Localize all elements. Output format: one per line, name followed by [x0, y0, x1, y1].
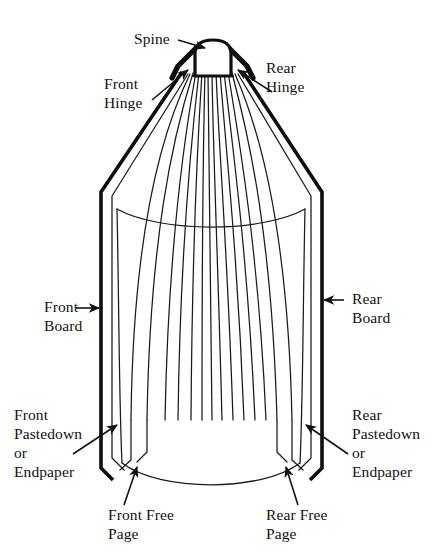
label-rear-hinge-line-1: Rear — [266, 59, 296, 76]
label-rear-pastedown: Rear Pastedown or Endpaper — [352, 406, 420, 480]
front-free-page-leader — [124, 467, 137, 505]
label-front-hinge-line-1: Front — [104, 75, 139, 92]
label-spine: Spine — [134, 30, 170, 47]
label-rear-pastedown-line-2: Pastedown — [352, 425, 420, 442]
label-front-pastedown-line-1: Front — [14, 406, 49, 423]
label-rear-pastedown-line-1: Rear — [352, 406, 382, 423]
label-front-pastedown: Front Pastedown or Endpaper — [14, 406, 82, 480]
label-rear-hinge: Rear Hinge — [266, 59, 304, 95]
label-front-pastedown-line-4: Endpaper — [14, 463, 75, 480]
label-rear-board: Rear Board — [352, 290, 391, 326]
spine-shape — [195, 40, 231, 76]
label-front-pastedown-line-2: Pastedown — [14, 425, 82, 442]
label-rear-pastedown-line-4: Endpaper — [352, 463, 413, 480]
label-spine-line-1: Spine — [134, 30, 170, 47]
label-front-board-line-1: Front — [44, 298, 79, 315]
label-rear-hinge-line-2: Hinge — [266, 78, 304, 95]
text-block-left-edge — [117, 209, 122, 463]
text-block-bottom-arc — [122, 463, 300, 485]
label-front-hinge: Front Hinge — [104, 75, 142, 111]
rear-free-page-leader — [286, 467, 298, 505]
label-rear-board-line-2: Board — [352, 309, 391, 326]
front-board-line — [101, 72, 182, 480]
label-front-pastedown-line-3: or — [14, 444, 28, 461]
rear-pastedown-leader — [306, 425, 348, 454]
label-front-board-line-2: Board — [44, 317, 83, 334]
text-block-shoulder-arc — [117, 209, 305, 227]
label-rear-free-page: Rear Free Page — [266, 506, 328, 542]
label-rear-free-page-line-2: Page — [266, 525, 297, 542]
book-anatomy-diagram: Spine Front Hinge Rear Hinge Front Board… — [0, 0, 432, 560]
label-front-free-page-line-2: Page — [108, 525, 139, 542]
label-front-board: Front Board — [44, 298, 83, 334]
label-rear-pastedown-line-3: or — [352, 444, 366, 461]
text-block-right-edge — [300, 209, 305, 463]
label-front-free-page: Front Free Page — [108, 506, 174, 542]
label-rear-free-page-line-1: Rear Free — [266, 506, 328, 523]
front-hinge-leader — [152, 70, 188, 100]
label-front-hinge-line-2: Hinge — [104, 94, 142, 111]
rear-board-inner-face — [238, 74, 311, 470]
label-rear-board-line-1: Rear — [352, 290, 382, 307]
diagram-canvas: Spine Front Hinge Rear Hinge Front Board… — [0, 0, 432, 560]
label-front-free-page-line-1: Front Free — [108, 506, 174, 523]
endpaper-leaves — [120, 420, 303, 470]
